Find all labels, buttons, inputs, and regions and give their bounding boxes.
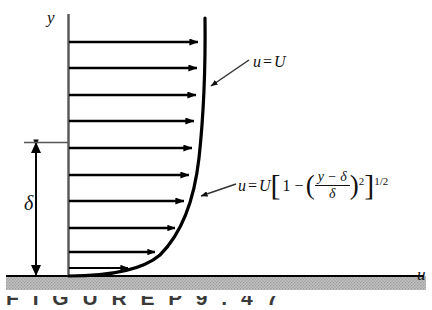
eq-one: 1: [281, 177, 293, 194]
figure-caption-text: F I G U R E P 9 . 4 7: [6, 296, 426, 310]
velocity-arrow-group: [69, 42, 198, 268]
profile-equation-leader: [201, 184, 236, 196]
freestream-u-symbol: u: [253, 53, 261, 70]
eq-bracket-close: ]: [364, 168, 374, 201]
freestream-U-symbol: U: [274, 53, 286, 70]
freestream-equals-sign: =: [261, 53, 274, 70]
x-axis-label: u: [417, 266, 426, 283]
figure-container: y u δ u=U u=U[1−(y − δδ)2]1/2 F I G U R …: [0, 0, 432, 310]
eq-equals-sign: =: [246, 177, 259, 194]
boundary-layer-diagram: [0, 0, 432, 310]
eq-outer-exponent: 1/2: [374, 175, 388, 187]
eq-minus-sign: −: [293, 177, 306, 194]
y-axis-label: y: [47, 9, 55, 26]
eq-fraction-denominator: δ: [315, 186, 350, 201]
boundary-layer-thickness-label: δ: [24, 193, 33, 213]
eq-paren-open: (: [306, 170, 315, 200]
eq-paren-close: ): [350, 170, 359, 200]
ground-surface: [6, 276, 426, 290]
eq-bracket-open: [: [271, 168, 281, 201]
freestream-equation-label: u=U: [253, 54, 286, 70]
eq-fraction-numerator: y − δ: [315, 170, 350, 186]
eq-lhs-u: u: [238, 177, 246, 194]
figure-caption-clipped: F I G U R E P 9 . 4 7: [6, 296, 426, 310]
freestream-leader: [211, 60, 249, 86]
profile-equation-label: u=U[1−(y − δδ)2]1/2: [238, 170, 388, 201]
eq-fraction: y − δδ: [315, 170, 350, 201]
eq-U-symbol: U: [259, 177, 271, 194]
